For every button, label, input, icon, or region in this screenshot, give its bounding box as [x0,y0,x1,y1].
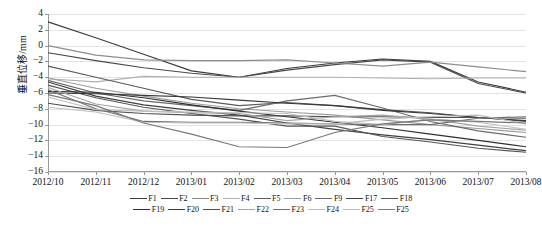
series-line-f19 [48,91,526,146]
legend-swatch-icon [308,209,325,210]
x-tick-mark [96,172,97,175]
y-tick-label: −16 [28,167,43,177]
legend-item-f22[interactable]: F22 [238,206,269,214]
legend-swatch-icon [381,198,398,199]
series-line-f2 [48,53,526,93]
x-tick-label: 2013/06 [415,177,446,187]
x-tick-label: 2012/10 [32,177,63,187]
legend-swatch-icon [346,198,363,199]
legend-item-f25[interactable]: F25 [343,206,374,214]
x-tick-mark [335,172,336,175]
y-tick-label: −12 [28,136,43,146]
y-tick-label: −4 [33,72,43,82]
x-tick-mark [430,172,431,175]
x-tick-label: 2013/01 [176,177,207,187]
x-tick-label: 2013/08 [510,177,541,187]
x-tick-label: 2013/04 [319,177,350,187]
x-tick-mark [48,172,49,175]
legend-label: F23 [292,206,304,214]
legend-label: F19 [152,206,164,214]
legend-item-f17[interactable]: F17 [346,195,377,203]
legend-swatch-icon [133,209,150,210]
x-tick-label: 2013/05 [367,177,398,187]
legend-label: F25 [361,206,373,214]
legend-item-f24[interactable]: F24 [308,206,339,214]
legend-swatch-icon [254,198,271,199]
legend-swatch-icon [238,209,255,210]
legend-item-f18[interactable]: F18 [381,195,412,203]
x-tick-mark [191,172,192,175]
legend-item-f25[interactable]: F25 [378,206,409,214]
x-tick-label: 2013/02 [224,177,255,187]
series-lines [48,14,526,172]
legend-item-f6[interactable]: F6 [284,195,311,203]
legend-item-f4[interactable]: F4 [223,195,250,203]
series-line-f24 [48,97,526,129]
legend-item-f19[interactable]: F19 [133,206,164,214]
legend-label: F2 [179,195,187,203]
x-tick-mark [287,172,288,175]
legend-label: F9 [334,195,342,203]
y-tick-label: −6 [33,88,43,98]
x-tick-label: 2012/12 [128,177,159,187]
y-tick-label: −14 [28,151,43,161]
y-tick-label: −2 [33,57,43,67]
y-tick-label: 0 [38,41,43,51]
legend-label: F22 [257,206,269,214]
legend-item-f2[interactable]: F2 [161,195,188,203]
x-tick-label: 2013/03 [271,177,302,187]
legend-swatch-icon [343,209,360,210]
y-tick-label: −8 [33,104,43,114]
x-tick-mark [383,172,384,175]
legend-swatch-icon [192,198,209,199]
legend-item-f20[interactable]: F20 [168,206,199,214]
legend-swatch-icon [315,198,332,199]
y-tick-label: −10 [28,120,43,130]
legend-row-1: F1F2F3F4F5F6F9F17F18 [0,193,542,204]
legend-label: F5 [272,195,280,203]
legend-swatch-icon [223,198,240,199]
legend-item-f21[interactable]: F21 [203,206,234,214]
plot-area: 420−2−4−6−8−10−12−14−16 2012/102012/1120… [48,14,526,172]
legend-swatch-icon [130,198,147,199]
legend-row-2: F19F20F21F22F23F24F25F25 [0,204,542,215]
line-chart: 垂直位移/mm 420−2−4−6−8−10−12−14−16 2012/102… [0,0,542,242]
series-line-f9 [48,80,526,137]
series-line-f4 [48,76,526,82]
y-axis-title: 垂直位移/mm [14,17,29,113]
legend-swatch-icon [203,209,220,210]
legend-label: F6 [303,195,311,203]
legend-label: F4 [241,195,249,203]
x-tick-label: 2012/11 [80,177,111,187]
legend-label: F17 [365,195,377,203]
legend-swatch-icon [273,209,290,210]
legend-item-f5[interactable]: F5 [254,195,281,203]
legend-label: F18 [400,195,412,203]
legend-item-f1[interactable]: F1 [130,195,157,203]
legend-item-f23[interactable]: F23 [273,206,304,214]
y-tick-label: 4 [38,9,43,19]
legend-swatch-icon [161,198,178,199]
legend-label: F24 [326,206,338,214]
legend-label: F1 [148,195,156,203]
legend-swatch-icon [378,209,395,210]
legend: F1F2F3F4F5F6F9F17F18 F19F20F21F22F23F24F… [0,193,542,215]
legend-label: F21 [222,206,234,214]
legend-item-f3[interactable]: F3 [192,195,219,203]
legend-label: F3 [210,195,218,203]
x-tick-label: 2013/07 [463,177,494,187]
legend-label: F20 [187,206,199,214]
y-tick-label: 2 [38,25,43,35]
x-tick-mark [144,172,145,175]
x-tick-mark [526,172,527,175]
legend-label: F25 [396,206,408,214]
legend-item-f9[interactable]: F9 [315,195,342,203]
legend-swatch-icon [168,209,185,210]
series-line-f3 [48,46,526,72]
legend-swatch-icon [284,198,301,199]
x-tick-mark [239,172,240,175]
x-tick-mark [478,172,479,175]
